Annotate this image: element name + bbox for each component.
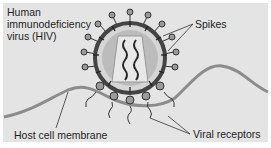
spikes-label: Spikes xyxy=(195,18,227,30)
virus-title: Human immunodeficiency virus (HIV) xyxy=(7,6,91,42)
receptors-leader xyxy=(168,116,190,134)
receptors-leader xyxy=(150,118,190,134)
host-membrane-leader xyxy=(56,92,68,128)
title-line: Human xyxy=(7,6,91,18)
title-line: immunodeficiency xyxy=(7,18,91,30)
host-membrane-label: Host cell membrane xyxy=(14,129,107,141)
spikes-leader xyxy=(163,24,193,36)
hiv-virion xyxy=(81,9,179,93)
title-line: virus (HIV) xyxy=(7,30,91,42)
viral-receptors-label: Viral receptors xyxy=(193,128,261,140)
capsid xyxy=(112,36,148,82)
